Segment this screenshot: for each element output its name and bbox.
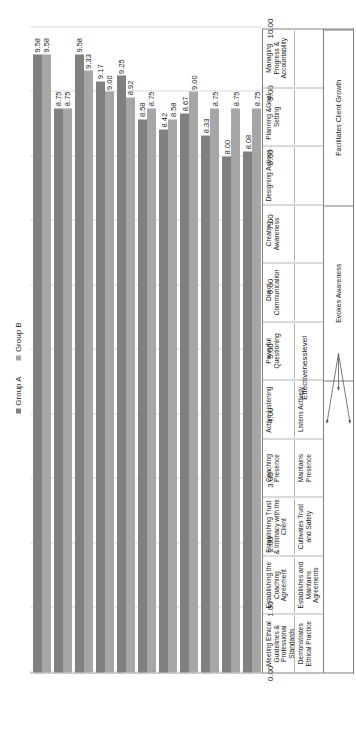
legend-swatch-group-a xyxy=(16,408,21,413)
bar-group-b[interactable] xyxy=(189,92,198,673)
bar-group-b[interactable] xyxy=(105,92,114,673)
bar-group-a[interactable] xyxy=(54,108,63,672)
bar-group-b[interactable] xyxy=(147,108,156,672)
bar-value-label: 9.33 xyxy=(84,54,93,69)
bar-value-label: 8.75 xyxy=(63,91,72,106)
bar-group-a[interactable] xyxy=(96,81,105,672)
chart-legend: Group A Group B xyxy=(14,0,23,735)
category-label: Planning &Goal Setting xyxy=(265,89,294,145)
category-label: Managing Progress & Accountability xyxy=(265,30,294,86)
bar-group: 9.589.33 xyxy=(72,27,93,672)
bar-group: 9.589.58 xyxy=(30,27,51,672)
bar-group-a[interactable] xyxy=(75,54,84,672)
bar-group-b[interactable] xyxy=(168,119,177,672)
bar-group: 8.588.75 xyxy=(135,27,156,672)
category-sublabel xyxy=(294,147,323,203)
bar-group: 8.679.00 xyxy=(178,27,199,672)
legend-swatch-group-b xyxy=(16,355,21,360)
bar-value-label: 8.58 xyxy=(138,102,147,117)
category-sublabel: Listens Actively xyxy=(294,381,323,437)
bar-value-label: 9.58 xyxy=(75,37,84,52)
bar-value-label: 9.58 xyxy=(42,37,51,52)
category-sublabel xyxy=(294,89,323,145)
category-cell: Direct Communication xyxy=(263,262,323,321)
category-label: Active Listening xyxy=(265,381,294,437)
bar-value-label: 8.67 xyxy=(180,96,189,111)
category-cell: Designing Actions xyxy=(263,145,323,204)
category-cell: Meeting Ethical Guidelines & Professiona… xyxy=(263,613,323,672)
bar-value-label: 8.75 xyxy=(147,91,156,106)
bar-group: 8.428.58 xyxy=(157,27,178,672)
bar-value-label: 9.00 xyxy=(105,75,114,90)
bar-group-a[interactable] xyxy=(201,135,210,672)
plot-area: 9.589.588.758.759.589.339.179.009.258.92… xyxy=(30,27,262,673)
bar-value-label: 8.42 xyxy=(159,112,168,127)
bar-group: 8.008.75 xyxy=(220,27,241,672)
bar-value-label: 8.92 xyxy=(126,80,135,95)
category-sublabel: Cultivates Trust and Safety xyxy=(294,498,323,554)
category-label: Establishing Trust & Intimacy with the C… xyxy=(265,498,294,554)
bar-group: 9.258.92 xyxy=(114,27,135,672)
bar-group-b[interactable] xyxy=(210,108,219,672)
bar-value-label: 8.00 xyxy=(222,139,231,154)
bar-value-label: 8.75 xyxy=(210,91,219,106)
bar-value-label: 8.08 xyxy=(243,134,252,149)
category-sublabel xyxy=(294,323,323,379)
category-cell: Active ListeningListens Actively xyxy=(263,379,323,438)
category-sublabel xyxy=(294,264,323,320)
rotated-chart-canvas: Group A Group B 9.589.588.758.759.589.33… xyxy=(0,0,356,735)
bar-group-a[interactable] xyxy=(138,119,147,672)
category-cell: Planning &Goal Setting xyxy=(263,87,323,146)
category-label: Meeting Ethical Guidelines & Professiona… xyxy=(265,615,294,671)
bar-group-b[interactable] xyxy=(252,108,261,672)
bar-group-a[interactable] xyxy=(33,54,42,672)
bar-group-a[interactable] xyxy=(180,113,189,672)
bar-group-a[interactable] xyxy=(243,151,252,672)
bar-group: 8.088.75 xyxy=(241,27,262,672)
category-cell: Establishing the Coaching AgreementEstab… xyxy=(263,555,323,614)
bar-group: 8.338.75 xyxy=(199,27,220,672)
category-label: Direct Communication xyxy=(265,264,294,320)
bar-value-label: 9.00 xyxy=(189,75,198,90)
category-cell: Coaching PresenceMaintains Presence xyxy=(263,438,323,497)
category-sublabel: Demonstrates Ethical Practice xyxy=(294,615,323,671)
category-cell: Powerful Questioning xyxy=(263,321,323,380)
category-cell: Creating Awareness xyxy=(263,204,323,263)
bar-group-b[interactable] xyxy=(84,70,93,672)
bar-group-b[interactable] xyxy=(126,97,135,672)
competency-band-row: Evokes AwarenessFacilitates Client Growt… xyxy=(324,28,354,673)
bar-group-b[interactable] xyxy=(42,54,51,672)
category-label: Creating Awareness xyxy=(265,206,294,262)
bar-group-b[interactable] xyxy=(231,108,240,672)
category-axis-table: Meeting Ethical Guidelines & Professiona… xyxy=(262,28,324,673)
bar-value-label: 8.58 xyxy=(168,102,177,117)
bar-group: 8.758.75 xyxy=(51,27,72,672)
bar-group-a[interactable] xyxy=(222,156,231,672)
bar-value-label: 8.75 xyxy=(252,91,261,106)
competency-band: Facilitates Client Growth xyxy=(324,29,353,205)
category-label: Designing Actions xyxy=(265,147,294,203)
bar-value-label: 9.17 xyxy=(96,64,105,79)
bar-value-label: 9.25 xyxy=(117,59,126,74)
bar-value-label: 8.75 xyxy=(54,91,63,106)
category-cell: Establishing Trust & Intimacy with the C… xyxy=(263,496,323,555)
category-cell: Managing Progress & Accountability xyxy=(263,29,323,87)
legend-label-group-b: Group B xyxy=(14,322,23,352)
screenshot-frame: Group A Group B 9.589.588.758.759.589.33… xyxy=(0,0,356,735)
category-sublabel: Establishes and Maintains Agreements xyxy=(294,557,323,613)
bar-group-a[interactable] xyxy=(117,75,126,672)
bar-value-label: 8.33 xyxy=(201,118,210,133)
category-label: Coaching Presence xyxy=(265,440,294,496)
legend-label-group-a: Group A xyxy=(14,376,23,405)
legend-item-group-a: Group A xyxy=(14,376,23,413)
category-label: Powerful Questioning xyxy=(265,323,294,379)
bar-value-label: 8.75 xyxy=(231,91,240,106)
category-sublabel: Maintains Presence xyxy=(294,440,323,496)
legend-item-group-b: Group B xyxy=(14,322,23,360)
competency-band: Evokes Awareness xyxy=(324,205,353,381)
category-sublabel xyxy=(294,30,323,86)
bar-group: 9.179.00 xyxy=(93,27,114,672)
competency-band xyxy=(324,380,353,672)
bar-group-b[interactable] xyxy=(63,108,72,672)
bar-group-a[interactable] xyxy=(159,129,168,672)
